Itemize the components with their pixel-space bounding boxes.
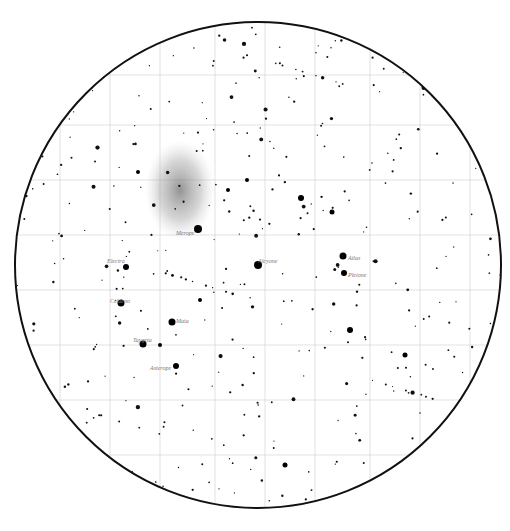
- star-label: Electra: [107, 258, 125, 264]
- star-label: Maia: [176, 318, 189, 324]
- star-label: Asterope: [150, 365, 171, 371]
- star-label: Merope: [176, 230, 194, 236]
- star-label: Celaeno: [110, 298, 130, 304]
- star-label: Pleione: [348, 272, 366, 278]
- star-label: Alcyone: [258, 258, 277, 264]
- star-chart-svg: [0, 0, 510, 531]
- star-label: Atlas: [348, 255, 360, 261]
- star-chart: MeropeElectraAlcyoneAtlasPleioneCelaenoM…: [0, 0, 510, 531]
- star-label: Taygeta: [133, 337, 152, 343]
